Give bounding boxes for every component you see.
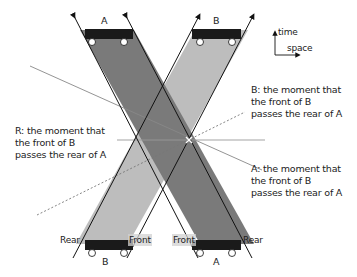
annotation-r: R: the moment that the front of B passes…: [15, 125, 106, 161]
annotation-r-line1: R: the moment that: [15, 125, 106, 137]
a-rear-label: Rear: [243, 234, 263, 246]
annotation-r-line2: the front of B: [15, 137, 106, 149]
annotation-a-line2: the front of B: [251, 175, 342, 187]
annotation-r-line3: passes the rear of A: [15, 149, 106, 161]
annotation-a-line1: A: the moment that: [251, 163, 342, 175]
time-axis-label: time: [278, 26, 298, 38]
annotation-b: B: the moment that the front of B passes…: [251, 84, 342, 120]
annotation-a-line3: passes the rear of A: [251, 187, 342, 199]
train-a-top-label: A: [101, 15, 107, 27]
train-b-bottom: [85, 240, 133, 257]
train-a-bottom-label: A: [213, 256, 219, 268]
train-b-bottom-label: B: [102, 256, 108, 268]
annotation-b-line1: B: the moment that: [251, 84, 342, 96]
b-front-label: Front: [128, 234, 152, 246]
b-rear-label: Rear: [60, 234, 80, 246]
annotation-b-line2: the front of B: [251, 96, 342, 108]
annotation-a: A: the moment that the front of B passes…: [251, 163, 342, 199]
train-b-top-label: B: [213, 15, 219, 27]
space-axis-label: space: [287, 42, 312, 54]
train-a-bottom: [192, 240, 241, 257]
a-front-label: Front: [172, 234, 196, 246]
annotation-b-line3: passes the rear of A: [251, 108, 342, 120]
